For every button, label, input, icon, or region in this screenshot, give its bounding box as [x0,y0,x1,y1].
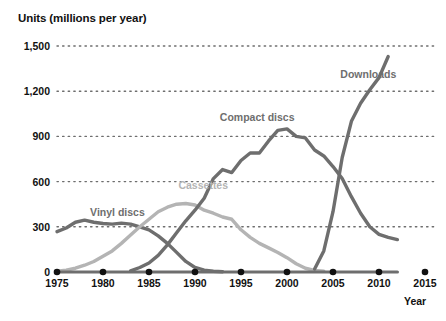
series-label-vinyl-discs: Vinyl discs [90,206,145,218]
x-axis-tick-dot [146,269,153,276]
chart-plot-area [0,0,446,321]
y-axis-tick-label: 600 [6,176,50,188]
series-label-downloads: Downloads [340,68,396,80]
y-axis-tick-label: 0 [6,266,50,278]
x-axis-tick-label: 2010 [367,277,390,289]
y-axis-tick-label: 1,500 [6,40,50,52]
series-label-cassettes: Cassettes [178,179,228,191]
x-axis-tick-label: 2005 [321,277,344,289]
series-line-downloads [315,57,389,269]
x-axis-tick-dot [376,269,383,276]
series-line-compact-discs [131,129,398,271]
series-label-compact-discs: Compact discs [220,111,295,123]
x-axis-tick-label: 2000 [275,277,298,289]
x-axis-tick-dot [422,269,429,276]
series-paths-group [57,57,397,272]
x-axis-tick-label: 2015 [413,277,436,289]
y-axis-tick-label: 1,200 [6,85,50,97]
x-axis-tick-dot [192,269,199,276]
x-axis-tick-label: 1985 [137,277,160,289]
x-axis-tick-dot [238,269,245,276]
x-axis-tick-dot [284,269,291,276]
x-axis-tick-label: 1990 [183,277,206,289]
y-axis-tick-label: 300 [6,221,50,233]
x-axis-tick-dot [330,269,337,276]
chart-container: Units (millions per year) 03006009001,20… [0,0,446,321]
y-axis-tick-label: 900 [6,130,50,142]
x-axis-tick-dot [100,269,107,276]
x-axis-tick-dot [54,269,61,276]
x-axis-tick-label: 1995 [229,277,252,289]
x-axis-tick-label: 1975 [45,277,68,289]
x-axis-tick-label: 1980 [91,277,114,289]
x-axis-title: Year [404,295,426,307]
